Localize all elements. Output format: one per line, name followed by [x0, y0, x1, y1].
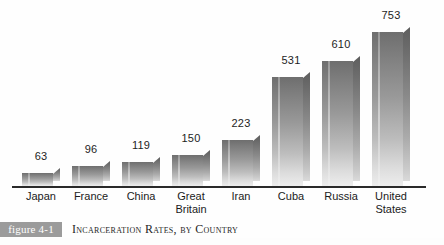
bar-front-face	[372, 32, 403, 186]
bar-highlight-seam	[278, 77, 280, 186]
x-axis-category-labels: JapanFranceChinaGreatBritainIranCubaRuss…	[0, 190, 444, 220]
bar-highlight-seam	[178, 155, 180, 186]
bar[interactable]	[172, 155, 210, 186]
bar-front-face	[72, 166, 103, 186]
bar-highlight-seam	[328, 61, 330, 186]
bar-slot: 531	[272, 0, 316, 186]
bar-value-label: 96	[72, 143, 110, 155]
bar-value-label: 119	[122, 139, 160, 151]
bar-slot: 63	[22, 0, 66, 186]
bar-highlight-seam	[28, 173, 30, 186]
figure-number-badge: figure 4-1	[0, 222, 62, 237]
bar-front-face	[172, 155, 203, 186]
bar-front-face	[222, 140, 253, 186]
bar-front-face	[322, 61, 353, 186]
bar-slot: 119	[122, 0, 166, 186]
bar-highlight-seam	[378, 32, 380, 186]
bar-front-face	[122, 162, 153, 186]
category-label-line: United	[361, 190, 421, 203]
bar-value-label: 531	[272, 54, 310, 66]
category-label-line: Britain	[161, 203, 221, 216]
bar-value-label: 610	[322, 38, 360, 50]
bar-highlight-seam	[78, 166, 80, 186]
bar-side-face	[303, 72, 310, 181]
bar-value-label: 63	[22, 150, 60, 162]
figure-caption-text: Incarceration Rates, by Country	[72, 222, 238, 237]
bar-value-label: 753	[372, 9, 410, 21]
page-edge-tint	[0, 238, 444, 245]
bar[interactable]	[372, 32, 410, 186]
bar-side-face	[253, 135, 260, 181]
bar-front-face	[272, 77, 303, 186]
category-label: UnitedStates	[361, 190, 421, 216]
bar-side-face	[353, 56, 360, 181]
figure-container: 6396119150223531610753 JapanFranceChinaG…	[0, 0, 444, 245]
bar[interactable]	[222, 140, 260, 186]
bar-chart-plot-area: 6396119150223531610753	[0, 0, 444, 186]
bar[interactable]	[122, 162, 160, 186]
bar-side-face	[403, 27, 410, 181]
bar-value-label: 223	[222, 117, 260, 129]
bar-highlight-seam	[128, 162, 130, 186]
bar-slot: 150	[172, 0, 216, 186]
category-label-line: States	[361, 203, 421, 216]
bar[interactable]	[272, 77, 310, 186]
bar-highlight-seam	[228, 140, 230, 186]
bar-slot: 96	[72, 0, 116, 186]
bar-front-face	[22, 173, 53, 186]
bar[interactable]	[72, 166, 110, 186]
x-axis-line	[12, 186, 426, 188]
bar-value-label: 150	[172, 132, 210, 144]
bar[interactable]	[322, 61, 360, 186]
bar[interactable]	[22, 173, 60, 186]
bar-slot: 610	[322, 0, 366, 186]
figure-caption: figure 4-1 Incarceration Rates, by Count…	[0, 221, 444, 238]
bar-slot: 223	[222, 0, 266, 186]
bar-slot: 753	[372, 0, 416, 186]
